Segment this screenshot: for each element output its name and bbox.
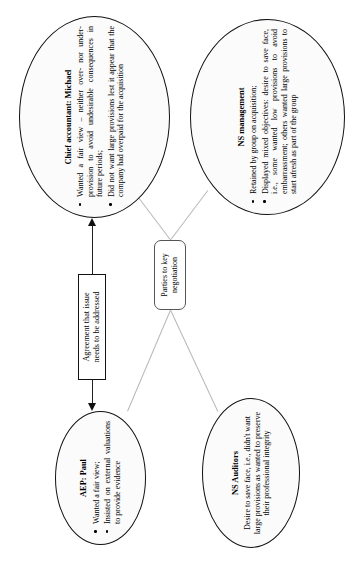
node-chief-accountant-bullet-list: Wanted a fair view – neither over- nor u… bbox=[76, 26, 125, 208]
bullet-text: Insisted on external valuations to provi… bbox=[103, 421, 121, 524]
center-node-parties-to-key-negotiation: Parties to key negotiation bbox=[154, 240, 186, 310]
arrowhead-to-chief-accountant bbox=[88, 218, 96, 226]
node-aep-paul-body: Wanted a fair view; Insisted on external… bbox=[92, 421, 122, 535]
node-ns-management: NS management Retained by group on acqui… bbox=[190, 19, 345, 215]
bullet-text: Displayed mixed objectives: desire to sa… bbox=[261, 29, 298, 194]
node-ns-auditors-body: Desire to save face, i.e., didn't want l… bbox=[243, 408, 271, 538]
node-chief-accountant-michael: Chief accountant: Michael Wanted a fair … bbox=[19, 16, 170, 218]
connector-agreement-to-chief-accountant bbox=[92, 224, 93, 274]
node-chief-accountant-body: Wanted a fair view – neither over- nor u… bbox=[76, 26, 125, 208]
node-ns-auditors: NS Auditors Desire to save face, i.e., d… bbox=[202, 398, 300, 548]
node-aep-paul-bullet-list: Wanted a fair view; Insisted on external… bbox=[92, 421, 122, 535]
list-item: Wanted a fair view; bbox=[92, 421, 101, 524]
arrowhead-to-aep bbox=[88, 403, 96, 411]
center-node-label: Parties to key negotiation bbox=[160, 253, 179, 297]
connector-center-to-ns-management bbox=[170, 190, 208, 240]
node-ns-management-title: NS management bbox=[237, 29, 247, 205]
bullet-text: Did not want large provisions lest it ap… bbox=[107, 26, 125, 197]
diagram-canvas: Agreement that issue needs to be address… bbox=[0, 0, 361, 563]
node-ns-management-body: Retained by group on acquisition; Displa… bbox=[249, 29, 298, 205]
agreement-box: Agreement that issue needs to be address… bbox=[78, 274, 106, 380]
bullet-text: Retained by group on acquisition; bbox=[249, 86, 258, 194]
center-node-line-1: Parties to key bbox=[160, 253, 169, 297]
list-item: Wanted a fair view – neither over- nor u… bbox=[76, 26, 104, 197]
node-aep-paul: AEP: Paul Wanted a fair view; Insisted o… bbox=[55, 411, 146, 545]
list-item: Retained by group on acquisition; bbox=[249, 29, 258, 194]
connector-agreement-to-aep bbox=[92, 379, 93, 403]
bullet-dot-icon bbox=[263, 200, 266, 203]
node-chief-accountant-title: Chief accountant: Michael bbox=[64, 26, 74, 208]
list-item: Did not want large provisions lest it ap… bbox=[107, 26, 126, 197]
node-ns-auditors-title: NS Auditors bbox=[231, 408, 241, 538]
agreement-label: Agreement that issue needs to be address… bbox=[82, 291, 102, 362]
bullet-dot-icon bbox=[106, 530, 109, 533]
center-node-line-2: negotiation bbox=[170, 257, 179, 293]
bullet-text: Wanted a fair view – neither over- nor u… bbox=[76, 26, 104, 197]
connector-center-to-aep bbox=[127, 310, 171, 412]
list-item: Insisted on external valuations to provi… bbox=[103, 421, 122, 524]
list-item: Displayed mixed objectives: desire to sa… bbox=[261, 29, 299, 194]
node-ns-management-bullet-list: Retained by group on acquisition; Displa… bbox=[249, 29, 298, 205]
agreement-line-1: Agreement that issue bbox=[82, 292, 91, 361]
bullet-dot-icon bbox=[109, 203, 112, 206]
connector-center-to-auditors bbox=[170, 310, 218, 412]
bullet-dot-icon bbox=[94, 530, 97, 533]
bullet-text: Wanted a fair view; bbox=[92, 461, 101, 524]
bullet-dot-icon bbox=[79, 203, 82, 206]
node-aep-paul-title: AEP: Paul bbox=[79, 421, 89, 535]
agreement-line-2: needs to be addressed bbox=[92, 291, 101, 362]
bullet-dot-icon bbox=[252, 200, 255, 203]
